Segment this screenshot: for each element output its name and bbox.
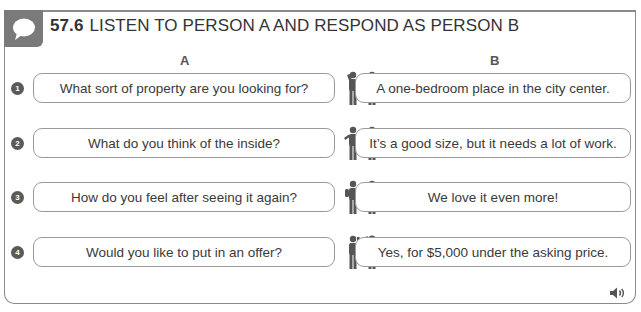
dialogue-row: 2 What do you think of the inside? It’s … — [0, 124, 641, 164]
exercise-title-text: LISTEN TO PERSON A AND RESPOND AS PERSON… — [90, 16, 520, 35]
dialogue-row: 3 How do you feel after seeing it again?… — [0, 178, 641, 218]
row-number: 3 — [11, 191, 24, 204]
audio-play-button[interactable] — [609, 286, 627, 304]
row-number: 4 — [11, 246, 24, 259]
person-b-bubble: A one-bedroom place in the city center. — [355, 73, 631, 103]
row-number: 1 — [11, 82, 24, 95]
person-a-bubble: Would you like to put in an offer? — [33, 237, 335, 267]
person-a-text: What do you think of the inside? — [88, 136, 280, 151]
person-b-bubble: It’s a good size, but it needs a lot of … — [355, 128, 631, 158]
person-a-text: How do you feel after seeing it again? — [71, 190, 297, 205]
person-b-bubble: We love it even more! — [355, 182, 631, 212]
exercise-title: 57.6LISTEN TO PERSON A AND RESPOND AS PE… — [50, 16, 519, 36]
person-b-text: It’s a good size, but it needs a lot of … — [369, 136, 616, 151]
person-a-bubble: What sort of property are you looking fo… — [33, 73, 335, 103]
column-header-a: A — [180, 53, 189, 68]
dialogue-row: 4 Would you like to put in an offer? Yes… — [0, 233, 641, 273]
column-header-b: B — [490, 53, 499, 68]
person-b-bubble: Yes, for $5,000 under the asking price. — [355, 237, 631, 267]
person-a-bubble: What do you think of the inside? — [33, 128, 335, 158]
exercise-badge — [4, 10, 43, 47]
person-b-text: Yes, for $5,000 under the asking price. — [378, 245, 609, 260]
person-a-text: What sort of property are you looking fo… — [60, 81, 308, 96]
exercise-number: 57.6 — [50, 16, 84, 35]
speaker-icon — [609, 286, 627, 300]
row-number: 2 — [11, 137, 24, 150]
speech-bubble-icon — [11, 17, 37, 41]
person-a-text: Would you like to put in an offer? — [86, 245, 282, 260]
dialogue-row: 1 What sort of property are you looking … — [0, 69, 641, 109]
person-b-text: A one-bedroom place in the city center. — [376, 81, 609, 96]
person-b-text: We love it even more! — [428, 190, 558, 205]
person-a-bubble: How do you feel after seeing it again? — [33, 182, 335, 212]
